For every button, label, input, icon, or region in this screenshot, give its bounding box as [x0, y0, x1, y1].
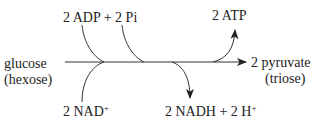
adp-input-curve — [82, 25, 104, 62]
glycolysis-diagram: 2 ADP + 2 Pi 2 ATP glucose (hexose) 2 py… — [0, 0, 318, 122]
nadh-output-curve — [172, 62, 190, 98]
nad-label: 2 NAD+ — [63, 104, 109, 119]
atp-output-curve — [213, 30, 235, 62]
pi-input-curve — [122, 25, 144, 62]
pyruvate-label: 2 pyruvate — [251, 55, 310, 70]
triose-note: (triose) — [265, 71, 305, 86]
hexose-note: (hexose) — [4, 72, 52, 87]
nad-text: 2 NAD — [63, 104, 104, 119]
nadh-text: 2 NADH + 2 H — [165, 104, 251, 119]
nadh-label: 2 NADH + 2 H+ — [165, 104, 257, 119]
nad-charge: + — [104, 103, 109, 113]
glucose-label: glucose — [4, 56, 47, 71]
adp-pi-label: 2 ADP + 2 Pi — [63, 10, 137, 25]
nadh-charge: + — [251, 103, 256, 113]
atp-label: 2 ATP — [212, 8, 247, 23]
nad-input-curve — [82, 62, 104, 102]
